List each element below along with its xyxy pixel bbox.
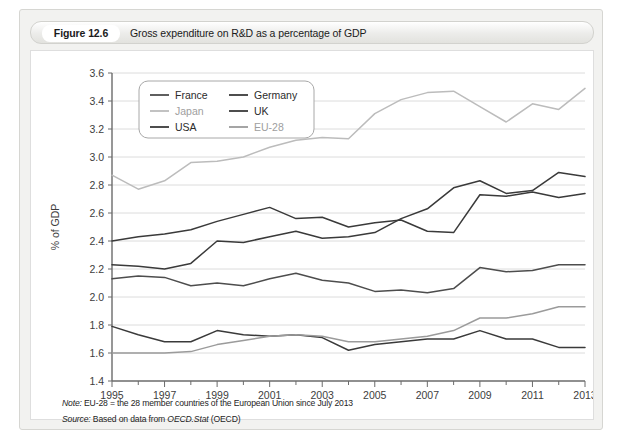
- y-axis-tick-label: 1.6: [89, 347, 104, 359]
- legend-label-uk: UK: [254, 105, 269, 117]
- note-text: EU-28 = the 28 member countries of the E…: [82, 398, 353, 408]
- y-axis-tick-label: 2.0: [89, 291, 104, 303]
- y-axis-tick-label: 3.6: [89, 67, 104, 79]
- figure-frame: Figure 12.6 Gross expenditure on R&D as …: [19, 9, 603, 430]
- legend-label-eu-28: EU-28: [254, 121, 284, 133]
- legend-label-france: France: [175, 89, 208, 101]
- series-line-uk: [112, 326, 585, 350]
- line-chart: 3.63.43.23.02.82.62.42.22.01.81.61.41995…: [31, 51, 593, 419]
- note-label: Note:: [62, 398, 82, 408]
- x-axis-tick-label: 2013: [573, 389, 593, 401]
- legend-label-germany: Germany: [254, 89, 298, 101]
- y-axis-tick-label: 2.2: [89, 263, 104, 275]
- series-line-eu-28: [112, 307, 585, 353]
- y-axis-tick-label: 3.2: [89, 123, 104, 135]
- figure-header-bar: Figure 12.6 Gross expenditure on R&D as …: [30, 21, 594, 44]
- y-axis-tick-label: 2.6: [89, 207, 104, 219]
- plot-card: 3.63.43.23.02.82.62.42.22.01.81.61.41995…: [30, 50, 594, 420]
- figure-caption: Gross expenditure on R&D as a percentage…: [130, 25, 366, 42]
- note-row: Note: EU-28 = the 28 member countries of…: [62, 398, 353, 408]
- y-axis-tick-label: 3.0: [89, 151, 104, 163]
- y-axis-title: % of GDP: [49, 204, 61, 251]
- y-axis-tick-label: 2.4: [89, 235, 104, 247]
- legend-label-japan: Japan: [175, 105, 204, 117]
- figure-number-badge: Figure 12.6: [42, 25, 120, 42]
- figure-container: Figure 12.6 Gross expenditure on R&D as …: [0, 0, 622, 446]
- source-text-after: (OECD): [209, 414, 241, 424]
- source-row: Source: Based on data from OECD.Stat (OE…: [62, 414, 240, 424]
- y-axis-tick-label: 3.4: [89, 95, 104, 107]
- legend-label-usa: USA: [175, 121, 197, 133]
- source-label: Source:: [62, 414, 91, 424]
- series-line-germany: [112, 192, 585, 241]
- y-axis-tick-label: 1.8: [89, 319, 104, 331]
- x-axis-tick-label: 2005: [363, 389, 387, 401]
- x-axis-tick-label: 2011: [521, 389, 544, 401]
- series-line-usa: [112, 172, 585, 269]
- x-axis-tick-label: 2009: [468, 389, 492, 401]
- source-text-before: Based on data from: [91, 414, 168, 424]
- y-axis-tick-label: 1.4: [89, 375, 104, 387]
- y-axis-tick-label: 2.8: [89, 179, 104, 191]
- x-axis-tick-label: 2007: [416, 389, 440, 401]
- source-publication: OECD.Stat: [167, 414, 208, 424]
